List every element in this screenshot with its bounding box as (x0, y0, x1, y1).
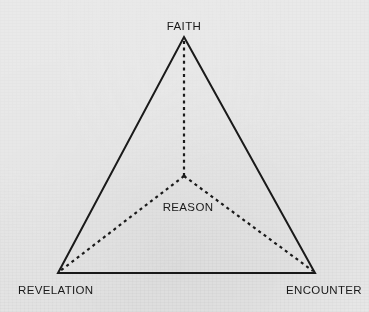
vertex-label-faith: FAITH (167, 21, 201, 33)
vertex-label-revelation: REVELATION (18, 285, 94, 297)
outer-triangle-outline (58, 37, 315, 273)
dotted-line-reason-to-encounter (184, 176, 313, 271)
centroid-junction-point (182, 174, 185, 177)
diagram-page: FAITH REASON REVELATION ENCOUNTER (0, 0, 369, 312)
center-label-reason: REASON (163, 202, 214, 214)
dotted-line-reason-to-revelation (60, 176, 184, 271)
vertex-label-encounter: ENCOUNTER (286, 285, 362, 297)
triangle-diagram-svg (0, 0, 369, 312)
